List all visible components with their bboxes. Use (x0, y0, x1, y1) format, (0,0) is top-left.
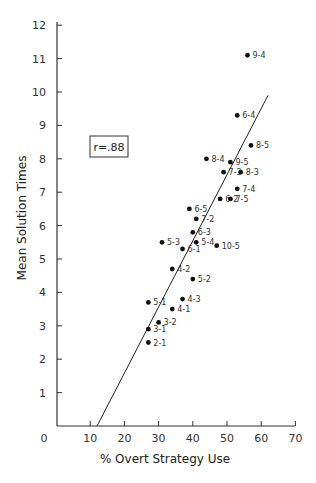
data-point (170, 267, 175, 272)
data-point (146, 300, 151, 305)
scatter-chart: 123456789101112010203040506070% Overt St… (0, 0, 316, 483)
data-point-label: 4-3 (188, 295, 201, 304)
y-tick-label: 7 (39, 186, 46, 199)
y-tick-label: 11 (32, 53, 46, 66)
data-point (235, 186, 240, 191)
x-tick-label: 20 (117, 432, 131, 445)
data-point-label: 6-3 (198, 228, 211, 237)
y-tick-label: 2 (39, 353, 46, 366)
y-tick-label: 5 (39, 253, 46, 266)
data-point-label: 7-2 (201, 215, 214, 224)
data-point-label: 4-2 (177, 265, 190, 274)
data-point-label: 8-5 (256, 141, 269, 150)
y-tick-label: 3 (39, 320, 46, 333)
data-point (160, 240, 165, 245)
x-tick-label: 70 (288, 432, 302, 445)
data-point (156, 320, 161, 325)
y-tick-label: 12 (32, 19, 46, 32)
data-point-label: 7-5 (235, 195, 248, 204)
data-point-label: 5-2 (198, 275, 211, 284)
data-point (204, 156, 209, 161)
x-tick-label: 60 (254, 432, 268, 445)
data-point-label: 9-4 (253, 51, 266, 60)
y-tick-label: 8 (39, 153, 46, 166)
data-point (194, 240, 199, 245)
data-point (238, 170, 243, 175)
data-point (146, 327, 151, 332)
data-point (235, 113, 240, 118)
data-point-label: 7-4 (242, 185, 255, 194)
x-tick-label: 30 (152, 432, 166, 445)
y-tick-label: 4 (39, 286, 46, 299)
data-point-label: 4-1 (177, 305, 190, 314)
data-point-label: 5-1 (153, 298, 166, 307)
data-point (187, 207, 192, 212)
data-point (180, 247, 185, 252)
data-point-label: 5-3 (167, 238, 180, 247)
data-point-label: 8-3 (246, 168, 259, 177)
data-point (228, 160, 233, 165)
data-point (170, 307, 175, 312)
data-point-label: 2-1 (153, 339, 166, 348)
data-point (218, 196, 223, 201)
y-tick-label: 6 (39, 220, 46, 233)
x-tick-label: 10 (83, 432, 97, 445)
data-point (190, 277, 195, 282)
x-axis-title: % Overt Strategy Use (100, 452, 230, 466)
correlation-label: r=.88 (93, 141, 124, 154)
data-point-label: 3-1 (153, 325, 166, 334)
x-tick-label: 50 (220, 432, 234, 445)
data-point (214, 243, 219, 248)
y-tick-label: 1 (39, 387, 46, 400)
x-tick-label: 40 (186, 432, 200, 445)
data-point-label: 9-5 (235, 158, 248, 167)
data-point (190, 230, 195, 235)
data-point (146, 340, 151, 345)
data-point (228, 196, 233, 201)
data-point-label: 8-4 (211, 155, 224, 164)
data-point-label: 10-5 (222, 242, 240, 251)
data-point (194, 217, 199, 222)
y-tick-label: 9 (39, 119, 46, 132)
y-tick-label: 10 (32, 86, 46, 99)
data-point (180, 297, 185, 302)
x-tick-label: 0 (41, 432, 48, 445)
data-point-label: 5-4 (201, 238, 214, 247)
y-axis-title: Mean Solution Times (15, 156, 29, 281)
data-point (221, 170, 226, 175)
data-point (249, 143, 254, 148)
plot-area: 123456789101112010203040506070% Overt St… (0, 0, 316, 483)
data-point-label: 6-4 (242, 111, 255, 120)
data-point (245, 53, 250, 58)
data-point-label: 6-1 (188, 245, 201, 254)
data-point-label: 6-5 (194, 205, 207, 214)
